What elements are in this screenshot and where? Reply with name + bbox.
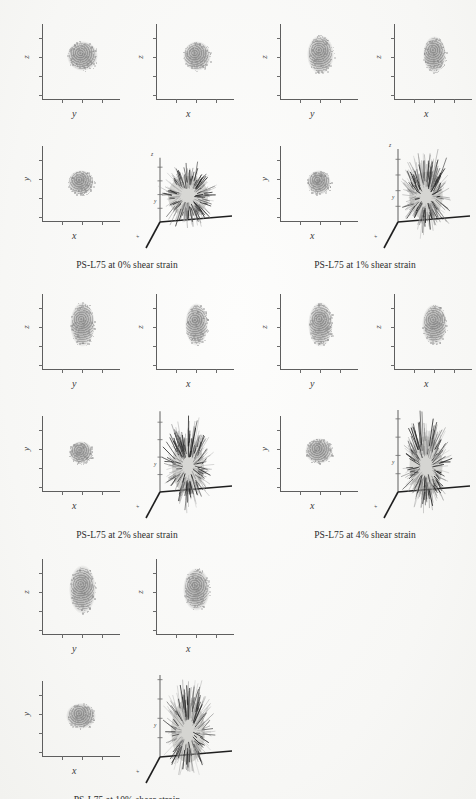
x-axis-label: x bbox=[72, 230, 76, 241]
x-axis-label: y bbox=[310, 378, 314, 389]
particle-point bbox=[314, 63, 316, 65]
particle-point bbox=[77, 721, 79, 723]
x-axis-line bbox=[42, 221, 120, 222]
particle-point bbox=[94, 65, 96, 67]
y-axis-tick bbox=[39, 160, 43, 161]
particle-point bbox=[94, 598, 96, 600]
y-axis-label: z bbox=[259, 325, 269, 329]
particle-point bbox=[314, 55, 316, 57]
particle-point bbox=[75, 186, 76, 187]
particle-point bbox=[426, 52, 427, 53]
x-axis-tick bbox=[62, 634, 63, 638]
particle-point bbox=[440, 332, 442, 334]
particle-point bbox=[84, 195, 86, 197]
particle-point bbox=[80, 42, 81, 43]
particle-point bbox=[324, 323, 325, 324]
particle-point bbox=[77, 335, 79, 337]
particle-point bbox=[314, 342, 315, 343]
particle-point bbox=[442, 338, 444, 340]
x-axis-tick bbox=[82, 634, 83, 638]
particle-point bbox=[199, 571, 201, 573]
particle-point bbox=[78, 49, 80, 51]
particle-point bbox=[426, 316, 427, 317]
particle-point bbox=[440, 65, 442, 67]
projection-zy: zy bbox=[16, 288, 126, 400]
particle-point bbox=[315, 172, 317, 174]
particle-point bbox=[315, 318, 316, 319]
particle-point bbox=[428, 56, 430, 58]
particle-point bbox=[317, 325, 319, 327]
particle-point bbox=[82, 718, 84, 720]
x-axis-line bbox=[156, 369, 234, 370]
y-axis-tick bbox=[277, 487, 281, 488]
y-axis-tick bbox=[153, 365, 157, 366]
particle-point bbox=[89, 192, 90, 193]
x-axis-tick bbox=[340, 221, 341, 225]
particle-point bbox=[88, 66, 89, 67]
y-axis-line bbox=[42, 416, 43, 492]
particle-point bbox=[187, 322, 189, 324]
particle-point bbox=[71, 722, 72, 723]
particle-point bbox=[326, 177, 328, 179]
particle-point bbox=[196, 580, 198, 582]
x-axis-line bbox=[280, 369, 358, 370]
particle-point bbox=[445, 325, 447, 327]
y-axis-label-3d: y bbox=[391, 194, 395, 200]
particle-point bbox=[308, 445, 310, 447]
particle-point bbox=[82, 307, 84, 309]
particle-point bbox=[75, 720, 76, 721]
particle-point bbox=[438, 327, 439, 328]
particle-point bbox=[95, 592, 96, 593]
particle-point bbox=[315, 40, 316, 41]
x-axis-tick bbox=[196, 369, 197, 373]
particle-point bbox=[74, 328, 75, 329]
y-axis-tick bbox=[391, 327, 395, 328]
particle-point bbox=[86, 194, 88, 196]
particle-point bbox=[94, 321, 95, 322]
particle-point bbox=[88, 185, 89, 186]
particle-point bbox=[206, 323, 207, 324]
particle-point bbox=[96, 62, 98, 64]
particle-point bbox=[312, 336, 313, 337]
x-axis-tick bbox=[196, 634, 197, 638]
x-axis-tick bbox=[102, 491, 103, 495]
y-axis-tick bbox=[277, 308, 281, 309]
particle-point bbox=[79, 329, 81, 331]
particle-point bbox=[81, 592, 83, 594]
x-axis-tick bbox=[62, 369, 63, 373]
particle-point bbox=[318, 446, 319, 447]
x-axis-tick bbox=[320, 369, 321, 373]
y-axis-tick bbox=[391, 76, 395, 77]
particle-point bbox=[91, 177, 93, 179]
particle-point bbox=[435, 321, 436, 322]
particle-point bbox=[79, 67, 81, 69]
particle-point bbox=[311, 454, 312, 455]
particle-point bbox=[311, 66, 312, 67]
particle-point bbox=[90, 711, 91, 712]
x-axis-tick bbox=[102, 221, 103, 225]
particle-point bbox=[193, 64, 195, 66]
particle-point bbox=[90, 573, 91, 574]
x-axis-tick bbox=[414, 99, 415, 103]
particle-point bbox=[202, 46, 204, 48]
y-axis-line bbox=[280, 294, 281, 370]
particle-point bbox=[92, 451, 93, 452]
particle-point bbox=[187, 589, 188, 590]
particle-point bbox=[195, 53, 197, 55]
x-axis-3d bbox=[146, 757, 160, 783]
particle-point bbox=[196, 307, 197, 308]
particle-point bbox=[93, 722, 94, 723]
particle-point bbox=[79, 323, 80, 324]
strain-group-2: zyzxyxzyxPS-L75 at 2% shear strain bbox=[8, 288, 246, 528]
particle-point bbox=[426, 58, 428, 60]
particle-point bbox=[203, 588, 204, 589]
y-axis-label: z bbox=[21, 590, 31, 594]
particle-point bbox=[82, 194, 84, 196]
particle-point bbox=[90, 570, 92, 572]
particle-point bbox=[75, 322, 77, 324]
particle-point bbox=[189, 50, 191, 52]
particle-point bbox=[444, 64, 446, 66]
particle-point bbox=[311, 187, 312, 188]
y-axis-tick bbox=[391, 57, 395, 58]
x-axis-tick bbox=[216, 369, 217, 373]
